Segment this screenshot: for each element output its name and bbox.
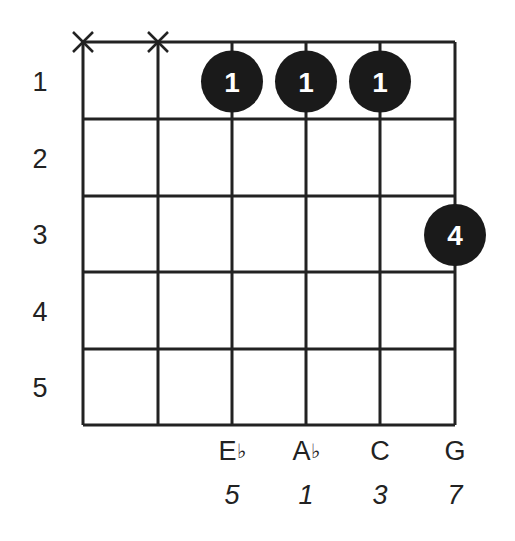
chord-diagram: 12345 1114 E♭5A♭1C3G7 xyxy=(0,0,515,541)
fret-number: 1 xyxy=(32,67,47,97)
interval-label: 5 xyxy=(224,480,240,510)
finger-dots: 1114 xyxy=(201,51,486,267)
fret-number: 4 xyxy=(32,297,47,327)
fret-number: 2 xyxy=(32,144,47,174)
fret-numbers: 12345 xyxy=(32,67,47,404)
finger-dot: 4 xyxy=(424,204,486,266)
note-labels: E♭5A♭1C3G7 xyxy=(218,436,465,510)
note-name: E♭ xyxy=(218,436,245,466)
finger-number: 1 xyxy=(224,67,240,98)
interval-label: 1 xyxy=(298,480,313,510)
finger-dot: 1 xyxy=(275,51,337,113)
fret-number: 5 xyxy=(32,373,47,403)
finger-dot: 1 xyxy=(349,51,411,113)
fret-number: 3 xyxy=(32,220,47,250)
finger-number: 4 xyxy=(447,220,463,251)
finger-number: 1 xyxy=(298,67,314,98)
note-name: C xyxy=(370,436,390,466)
interval-label: 7 xyxy=(447,480,463,510)
interval-label: 3 xyxy=(372,480,387,510)
note-name: G xyxy=(444,436,465,466)
note-name: A♭ xyxy=(292,436,319,466)
finger-number: 1 xyxy=(372,67,388,98)
finger-dot: 1 xyxy=(201,51,263,113)
